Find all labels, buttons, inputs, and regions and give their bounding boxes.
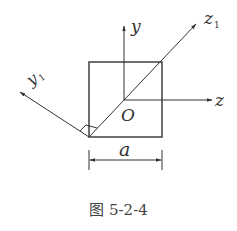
label-z1: z [203,8,214,28]
figure-diagram: y z z 1 y 1 O a [0,0,237,231]
z1-axis [89,24,196,137]
label-y: y [130,16,141,36]
label-origin: O [121,105,135,125]
label-z1-sub: 1 [214,20,220,30]
figure-caption: 图 5-2-4 [0,198,237,219]
label-z: z [214,90,225,110]
label-dimension-a: a [119,138,130,160]
y1-axis [20,92,89,137]
